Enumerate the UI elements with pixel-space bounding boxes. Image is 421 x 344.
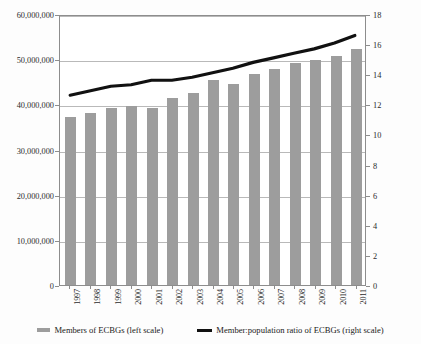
- y-axis-right-tick: [366, 196, 370, 197]
- y-axis-left-tick-label: 30,000,000: [0, 146, 54, 155]
- x-axis-tick-label: 2011: [359, 289, 368, 305]
- x-axis-tick-label: 2010: [339, 289, 348, 305]
- y-axis-right-tick-label: 10: [373, 131, 397, 140]
- x-axis-tick-label: 1999: [114, 289, 123, 305]
- x-axis-tick-label: 2009: [318, 289, 327, 305]
- x-axis-tick: [335, 286, 336, 289]
- y-axis-left-tick: [55, 286, 59, 287]
- x-axis-tick: [192, 286, 193, 289]
- y-axis-right-tick: [366, 226, 370, 227]
- y-axis-right-tick: [366, 135, 370, 136]
- x-axis-tick: [110, 286, 111, 289]
- x-axis-tick-label: 2005: [236, 289, 245, 305]
- x-axis-tick: [253, 286, 254, 289]
- x-axis-tick: [172, 286, 173, 289]
- y-axis-right-tick-label: 12: [373, 101, 397, 110]
- y-axis-right-tick-label: 6: [373, 191, 397, 200]
- x-axis-tick: [90, 286, 91, 289]
- chart-figure: 010,000,00020,000,00030,000,00040,000,00…: [0, 0, 421, 344]
- ratio-line: [70, 35, 355, 95]
- x-axis-tick: [356, 286, 357, 289]
- y-axis-right-tick: [366, 166, 370, 167]
- legend-label-ratio: Member:population ratio of ECBGs (right …: [216, 325, 383, 335]
- y-axis-left-tick-label: 20,000,000: [0, 191, 54, 200]
- x-axis-tick-label: 2008: [298, 289, 307, 305]
- chart-legend: Members of ECBGs (left scale) Member:pop…: [0, 325, 421, 335]
- y-axis-left-tick-label: 40,000,000: [0, 101, 54, 110]
- legend-item-members: Members of ECBGs (left scale): [37, 325, 163, 335]
- plot-area: [59, 15, 366, 286]
- y-axis-right-tick: [366, 105, 370, 106]
- y-axis-right-tick-label: 8: [373, 161, 397, 170]
- y-axis-right-tick: [366, 15, 370, 16]
- legend-item-ratio: Member:population ratio of ECBGs (right …: [197, 325, 383, 335]
- x-axis-tick-label: 1998: [93, 289, 102, 305]
- y-axis-right-tick: [366, 256, 370, 257]
- bar-swatch-icon: [37, 328, 50, 332]
- x-axis-tick: [131, 286, 132, 289]
- x-axis-tick: [69, 286, 70, 289]
- x-axis-tick-label: 2003: [196, 289, 205, 305]
- y-axis-right-tick-label: 2: [373, 251, 397, 260]
- x-axis-tick-label: 2001: [155, 289, 164, 305]
- x-axis-tick: [274, 286, 275, 289]
- x-axis-tick: [151, 286, 152, 289]
- line-swatch-icon: [197, 329, 212, 332]
- y-axis-right-tick-label: 0: [373, 282, 397, 291]
- y-axis-right-tick-label: 4: [373, 221, 397, 230]
- x-axis-tick-label: 2007: [277, 289, 286, 305]
- y-axis-right-tick: [366, 45, 370, 46]
- x-axis-tick-label: 2000: [134, 289, 143, 305]
- x-axis-tick-label: 2002: [175, 289, 184, 305]
- y-axis-right-tick: [366, 75, 370, 76]
- line-series-layer: [60, 16, 365, 285]
- y-axis-left-tick-label: 0: [0, 282, 54, 291]
- x-axis-tick: [233, 286, 234, 289]
- y-axis-right-tick-label: 14: [373, 71, 397, 80]
- x-axis-tick-label: 1997: [73, 289, 82, 305]
- x-axis-tick: [213, 286, 214, 289]
- y-axis-right-tick-label: 18: [373, 11, 397, 20]
- y-axis-left-tick-label: 60,000,000: [0, 11, 54, 20]
- y-axis-right-tick-label: 16: [373, 41, 397, 50]
- y-axis-right-tick: [366, 286, 370, 287]
- x-axis-tick-label: 2004: [216, 289, 225, 305]
- x-axis-tick: [294, 286, 295, 289]
- x-axis-tick: [315, 286, 316, 289]
- y-axis-left-tick-label: 50,000,000: [0, 56, 54, 65]
- x-axis-tick-label: 2006: [257, 289, 266, 305]
- y-axis-left-tick-label: 10,000,000: [0, 236, 54, 245]
- legend-label-members: Members of ECBGs (left scale): [54, 325, 163, 335]
